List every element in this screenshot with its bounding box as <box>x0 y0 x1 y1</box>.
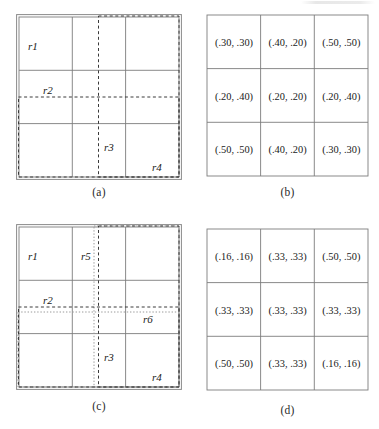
panel-d-cell: (.33, .33) <box>207 306 261 316</box>
panel-d-cell: (.16, .16) <box>207 252 261 262</box>
panel-b: (.30, .30) (.40, .20) (.50, .50) (.20, .… <box>206 14 369 204</box>
panel-c-caption: (c) <box>16 400 182 412</box>
panel-b-cell: (.30, .30) <box>207 38 261 48</box>
panel-c-diagram <box>16 224 182 390</box>
panel-a-region-label-r2: r2 <box>43 85 53 96</box>
panel-d-cell: (.33, .33) <box>261 306 315 316</box>
panel-b-cell: (.20, .40) <box>207 92 261 102</box>
panel-a-region-label-r3: r3 <box>104 142 114 153</box>
panel-c-region-label-r1: r1 <box>28 251 38 262</box>
panel-d-caption: (d) <box>206 404 369 416</box>
panel-a-diagram <box>16 14 182 180</box>
panel-c: r1 r2 r3 r4 r5 r6 (c) <box>16 224 182 419</box>
panel-b-cell: (.50, .50) <box>207 145 261 155</box>
panel-d: (.16, .16) (.33, .33) (.50, .50) (.33, .… <box>206 228 369 423</box>
page-artifact <box>301 1 375 4</box>
panel-b-cell: (.20, .40) <box>314 92 368 102</box>
panel-b-caption: (b) <box>206 186 369 198</box>
panel-c-region-label-r4: r4 <box>152 372 162 383</box>
panel-a: r1 r2 r3 r4 (a) <box>16 14 182 204</box>
panel-c-region-label-r5: r5 <box>81 251 91 262</box>
panel-b-cell: (.40, .20) <box>261 38 315 48</box>
panel-d-cell: (.50, .50) <box>314 252 368 262</box>
panel-a-region-label-r4: r4 <box>152 162 162 173</box>
panel-d-cell: (.50, .50) <box>207 359 261 369</box>
panel-d-cell: (.16, .16) <box>314 359 368 369</box>
panel-d-cell: (.33, .33) <box>314 306 368 316</box>
panel-c-region-label-r6: r6 <box>143 314 153 325</box>
panel-c-region-label-r2: r2 <box>43 295 53 306</box>
panel-d-cell: (.33, .33) <box>261 359 315 369</box>
panel-a-region-label-r1: r1 <box>28 41 38 52</box>
panel-b-cell: (.20, .20) <box>261 92 315 102</box>
panel-a-caption: (a) <box>16 186 182 198</box>
figure-container: r1 r2 r3 r4 (a) (.30, .30) (.40, .20) (.… <box>0 0 379 429</box>
panel-b-cell: (.50, .50) <box>314 38 368 48</box>
panel-d-cell: (.33, .33) <box>261 252 315 262</box>
panel-b-cell: (.40, .20) <box>261 145 315 155</box>
panel-c-region-label-r3: r3 <box>104 352 114 363</box>
panel-b-cell: (.30, .30) <box>314 145 368 155</box>
